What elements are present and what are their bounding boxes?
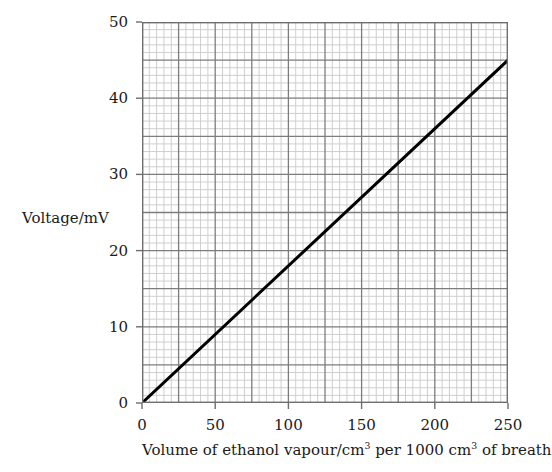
x-tick-label: 100 (274, 418, 303, 433)
y-tick-label: 0 (92, 396, 128, 411)
y-tick-label: 10 (92, 319, 128, 334)
y-tick-label: 20 (92, 243, 128, 258)
y-tick-label: 40 (92, 91, 128, 106)
label-text: Volume of ethanol vapour/cm (142, 441, 365, 459)
label-text: per 1000 cm (370, 441, 471, 459)
label-text: of breath (477, 441, 551, 459)
x-tick-label: 0 (137, 418, 147, 433)
y-axis-title: Voltage/mV (22, 209, 109, 227)
plot-area (142, 22, 508, 403)
y-tick-label: 50 (92, 15, 128, 30)
y-tick-label: 30 (92, 167, 128, 182)
x-axis-title: Volume of ethanol vapour/cm3 per 1000 cm… (142, 441, 508, 459)
axis-frame (142, 22, 508, 403)
x-tick-label: 200 (420, 418, 449, 433)
x-tick-label: 250 (494, 418, 523, 433)
x-tick-label: 50 (206, 418, 225, 433)
x-tick-label: 150 (347, 418, 376, 433)
